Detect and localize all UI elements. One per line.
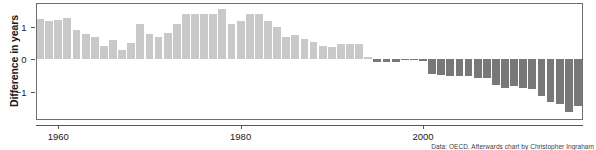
chart-figure: Difference in years −101 196019802000 Da… xyxy=(0,0,596,150)
bar xyxy=(456,59,464,75)
y-tick-mark xyxy=(31,59,35,60)
y-tick-label: 0 xyxy=(5,54,27,65)
bar xyxy=(264,21,272,59)
bar xyxy=(291,35,299,60)
bar xyxy=(574,59,581,105)
bar xyxy=(446,59,454,76)
bar xyxy=(173,24,181,60)
bar xyxy=(73,30,81,59)
bar xyxy=(200,14,208,60)
bar xyxy=(301,39,309,59)
bar xyxy=(319,46,327,59)
x-tick-label: 1980 xyxy=(230,131,251,142)
bar xyxy=(237,21,245,59)
bar xyxy=(519,59,527,88)
bar xyxy=(310,42,318,59)
bar xyxy=(118,50,126,60)
bar xyxy=(146,34,154,59)
bar xyxy=(54,20,62,59)
bar xyxy=(501,59,509,88)
bar xyxy=(155,37,163,60)
bar xyxy=(474,59,482,78)
x-axis-line xyxy=(36,125,583,126)
y-tick-label: −1 xyxy=(5,86,27,97)
bar xyxy=(209,14,217,60)
bar xyxy=(346,44,354,59)
bar xyxy=(164,33,172,59)
bar xyxy=(538,59,546,95)
plot-area xyxy=(37,4,582,119)
bar xyxy=(282,37,290,59)
bar xyxy=(246,14,254,60)
bar xyxy=(45,21,53,59)
bar xyxy=(127,43,135,59)
bar xyxy=(428,59,436,74)
bar xyxy=(109,40,117,60)
x-tick-label: 2000 xyxy=(412,131,433,142)
y-tick-label: 1 xyxy=(5,21,27,32)
bar xyxy=(419,59,427,61)
bar xyxy=(364,57,372,59)
bar xyxy=(328,47,336,59)
y-tick-mark xyxy=(31,27,35,28)
bar xyxy=(465,59,473,76)
bar xyxy=(410,59,418,60)
bar xyxy=(492,59,500,85)
y-tick-mark xyxy=(31,92,35,93)
bar xyxy=(528,59,536,89)
bar xyxy=(392,59,400,61)
bar xyxy=(437,59,445,75)
bar xyxy=(383,59,391,61)
bar xyxy=(355,44,363,59)
bar xyxy=(547,59,555,101)
bar xyxy=(91,37,99,60)
x-tick-mark xyxy=(241,125,242,129)
bar xyxy=(37,19,44,60)
bar xyxy=(373,59,381,61)
bar xyxy=(182,14,190,60)
bar xyxy=(100,46,108,60)
bar xyxy=(565,59,573,112)
bar xyxy=(82,34,90,59)
x-tick-mark xyxy=(423,125,424,129)
bar xyxy=(136,24,144,59)
bar xyxy=(218,9,226,60)
x-tick-mark xyxy=(58,125,59,129)
bar xyxy=(255,14,263,60)
bar xyxy=(510,59,518,86)
bar xyxy=(63,18,71,59)
bar xyxy=(401,59,409,60)
figure-caption: Data: OECD. Afterwards chart by Christop… xyxy=(431,143,594,150)
bar xyxy=(483,59,491,78)
x-tick-label: 1960 xyxy=(48,131,69,142)
bar xyxy=(228,24,236,59)
bar xyxy=(337,44,345,60)
bar xyxy=(191,14,199,60)
bar xyxy=(556,59,564,104)
bar xyxy=(273,27,281,60)
